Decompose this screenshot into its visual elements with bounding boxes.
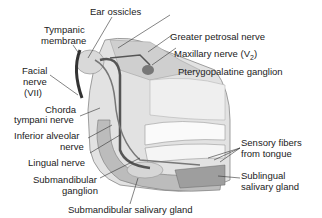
label-submandibular-ganglion-line2: ganglion [62,185,98,196]
label-maxillary-nerve: Maxillary nerve (V2) [174,48,257,63]
label-sublingual-line2: salivary gland [241,181,299,192]
label-lingual-nerve: Lingual nerve [28,157,85,168]
label-sensory-fibers-line2: from tongue [241,148,292,159]
pterygopalatine-ganglion [142,65,154,75]
label-sensory-fibers-line1: Sensory fibers [241,137,302,148]
label-facial-line3: (VII) [24,87,42,98]
label-pterygopalatine-ganglion: Pterygopalatine ganglion [178,66,283,77]
label-submandibular-salivary-gland: Submandibular salivary gland [68,204,193,215]
maxillary-text: Maxillary nerve (V [174,48,250,59]
label-tympanic-membrane-line2: membrane [41,35,86,46]
label-sublingual-line1: Sublingual [241,170,285,181]
label-ear-ossicles: Ear ossicles [90,6,141,17]
nasal-region [150,78,225,120]
maxillary-close: ) [254,48,257,59]
label-tympanic-membrane-line1: Tympanic [44,24,85,35]
label-submandibular-ganglion-line1: Submandibular [33,174,97,185]
label-greater-petrosal-nerve: Greater petrosal nerve [170,31,265,42]
label-inferior-alveolar-line1: Inferior alveolar [14,130,79,141]
label-facial-line1: Facial [22,65,47,76]
label-inferior-alveolar-line2: nerve [60,141,84,152]
label-facial-line2: nerve [23,76,47,87]
label-chorda-line2: tympani nerve [14,114,74,125]
